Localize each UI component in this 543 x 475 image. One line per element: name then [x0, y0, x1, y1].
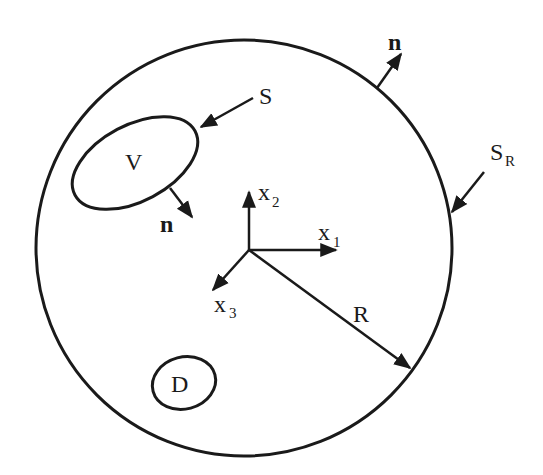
sphere-surface-pointer — [452, 172, 484, 212]
x3-axis-label: x 3 — [214, 291, 237, 321]
inclusion-d-label: D — [171, 371, 188, 397]
svg-text:x: x — [214, 291, 226, 317]
sphere-surface-label: S R — [490, 139, 515, 169]
svg-text:x: x — [258, 179, 270, 205]
radius-line — [249, 250, 410, 368]
inclusion-normal-label: n — [160, 211, 173, 237]
elastic-body-diagram: n S R V S n D x 2 x 1 x 3 R — [0, 0, 543, 475]
inclusion-v-label: V — [125, 149, 143, 175]
inclusion-surface-pointer — [201, 98, 253, 127]
x3-axis-arrow — [213, 250, 249, 290]
x1-axis-label: x 1 — [318, 219, 341, 250]
svg-text:1: 1 — [333, 234, 341, 250]
radius-label: R — [353, 301, 369, 327]
svg-text:2: 2 — [272, 194, 280, 210]
svg-text:R: R — [505, 153, 515, 169]
svg-text:3: 3 — [229, 305, 237, 321]
outer-normal-label: n — [388, 29, 401, 55]
inclusion-surface-label: S — [259, 83, 272, 109]
svg-text:x: x — [318, 219, 330, 245]
svg-text:S: S — [490, 139, 503, 165]
outer-normal-arrow — [377, 54, 401, 88]
x2-axis-label: x 2 — [258, 179, 280, 210]
